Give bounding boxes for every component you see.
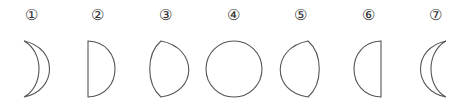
moon-phase-figure: ① ② ③ ④ ⑤ ⑥ ⑦ [0, 0, 458, 107]
half-disc-left-shape-6 [354, 41, 381, 97]
crescent-right-shape-1 [24, 41, 50, 97]
gibbous-shape-3 [150, 41, 189, 97]
gibbous-shape-5 [280, 41, 319, 97]
crescent-left-shape-7 [421, 41, 447, 97]
phase-shapes [0, 0, 458, 107]
full-circle-shape-4 [206, 41, 262, 97]
half-disc-right-shape-2 [88, 41, 115, 97]
